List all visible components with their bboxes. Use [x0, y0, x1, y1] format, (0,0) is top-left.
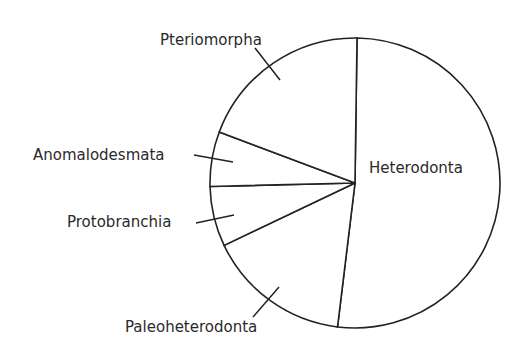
pie-slices [210, 38, 500, 328]
label-paleoheterodonta: Paleoheterodonta [125, 318, 257, 336]
slice-heterodonta [338, 38, 500, 328]
label-heterodonta: Heterodonta [369, 159, 463, 177]
label-pteriomorpha: Pteriomorpha [160, 31, 262, 49]
label-anomalodesmata: Anomalodesmata [33, 146, 165, 164]
label-protobranchia: Protobranchia [67, 213, 171, 231]
pie-chart: Heterodonta Pteriomorpha Anomalodesmata … [0, 0, 523, 364]
